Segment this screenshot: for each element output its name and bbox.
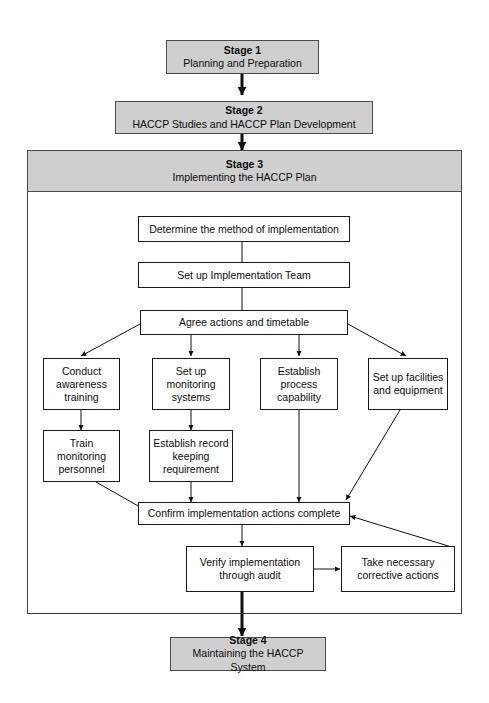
stage-2-box[interactable]: Stage 2 HACCP Studies and HACCP Plan Dev… [115,101,373,134]
node-implementation-team-label: Set up Implementation Team [177,269,310,282]
stage-1-subtitle: Planning and Preparation [183,57,302,71]
node-establish-process[interactable]: Establish process capability [260,358,338,410]
node-setup-facilities[interactable]: Set up facilities and equipment [368,358,448,410]
stage-3-title: Stage 3 [226,158,263,172]
node-conduct-awareness-label: Conduct awareness training [47,365,116,404]
stage-2-title: Stage 2 [225,104,262,118]
node-determine-method-label: Determine the method of implementation [149,223,339,236]
stage-4-subtitle: Maintaining the HACCP System [174,647,322,674]
stage-2-subtitle: HACCP Studies and HACCP Plan Development [132,118,355,132]
node-establish-record-label: Establish record keeping requirement [153,437,229,476]
node-confirm-actions[interactable]: Confirm implementation actions complete [138,502,350,525]
node-train-monitoring[interactable]: Train monitoring personnel [43,430,120,482]
node-setup-facilities-label: Set up facilities and equipment [372,371,444,397]
stage-1-title: Stage 1 [224,44,261,58]
node-setup-monitoring[interactable]: Set up monitoring systems [152,358,230,410]
node-train-monitoring-label: Train monitoring personnel [47,437,116,476]
node-conduct-awareness[interactable]: Conduct awareness training [43,358,120,410]
node-agree-actions[interactable]: Agree actions and timetable [140,310,348,335]
node-confirm-actions-label: Confirm implementation actions complete [148,507,341,520]
stage-3-header[interactable]: Stage 3 Implementing the HACCP Plan [27,150,462,192]
stage-4-box[interactable]: Stage 4 Maintaining the HACCP System [170,637,326,671]
node-setup-monitoring-label: Set up monitoring systems [156,365,226,404]
node-corrective-actions-label: Take necessary corrective actions [345,556,451,582]
flowchart-canvas: Stage 1 Planning and Preparation Stage 2… [0,0,489,703]
node-establish-process-label: Establish process capability [264,365,334,404]
node-establish-record[interactable]: Establish record keeping requirement [149,430,233,482]
stage-3-subtitle: Implementing the HACCP Plan [173,171,317,185]
node-corrective-actions[interactable]: Take necessary corrective actions [341,546,455,592]
node-implementation-team[interactable]: Set up Implementation Team [138,262,350,288]
node-verify-audit[interactable]: Verify implementation through audit [186,546,314,592]
stage-1-box[interactable]: Stage 1 Planning and Preparation [166,40,319,74]
stage-4-title: Stage 4 [229,634,266,648]
node-verify-audit-label: Verify implementation through audit [190,556,310,582]
node-agree-actions-label: Agree actions and timetable [179,316,309,329]
node-determine-method[interactable]: Determine the method of implementation [138,216,350,242]
